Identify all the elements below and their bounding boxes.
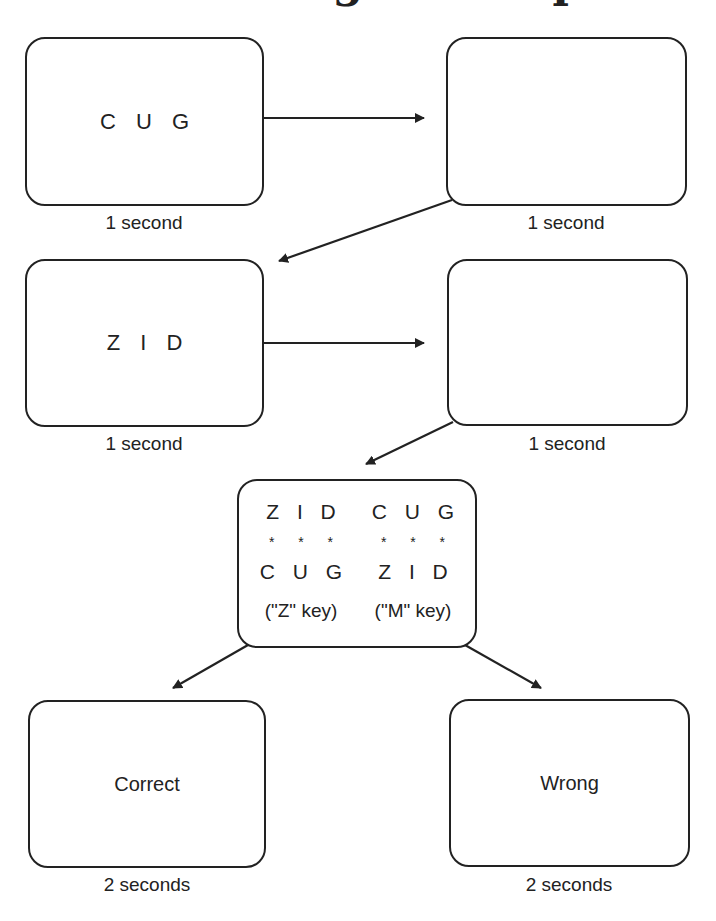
duration-label: 2 seconds: [27, 874, 267, 896]
right-bottom-stimulus: Z I D: [357, 557, 469, 587]
arrow-4-to-choice: [366, 422, 453, 464]
feedback-text: Wrong: [540, 772, 599, 795]
study-box-1: C U G: [25, 37, 264, 206]
right-key-label: ("M" key): [357, 587, 469, 631]
choice-row-top: Z I D C U G: [245, 497, 469, 527]
duration-label: 2 seconds: [449, 874, 689, 896]
choice-row-stars: * * * * * *: [245, 527, 469, 557]
duration-label: 1 second: [24, 212, 264, 234]
right-stars: * * *: [357, 527, 469, 557]
left-top-stimulus: Z I D: [245, 497, 357, 527]
right-top-stimulus: C U G: [357, 497, 469, 527]
left-bottom-stimulus: C U G: [245, 557, 357, 587]
feedback-text: Correct: [114, 773, 180, 796]
feedback-wrong-box: Wrong: [449, 699, 690, 867]
arrow-choice-to-correct: [173, 645, 248, 688]
duration-label: 1 second: [24, 433, 264, 455]
duration-label: 1 second: [447, 433, 687, 455]
choice-box: Z I D C U G * * * * * * C U G Z I D ("Z"…: [237, 479, 477, 648]
arrow-choice-to-wrong: [465, 645, 541, 688]
study-box-2: Z I D: [25, 259, 264, 427]
feedback-correct-box: Correct: [28, 700, 266, 868]
stimulus-text: Z I D: [100, 330, 190, 356]
choice-row-bottom: C U G Z I D: [245, 557, 469, 587]
blank-box-2: [447, 259, 688, 426]
left-stars: * * *: [245, 527, 357, 557]
left-key-label: ("Z" key): [245, 587, 357, 631]
blank-box-1: [446, 37, 687, 206]
choice-row-keys: ("Z" key) ("M" key): [245, 587, 469, 631]
arrow-2-to-3: [279, 200, 452, 261]
duration-label: 1 second: [446, 212, 686, 234]
stimulus-text: C U G: [93, 109, 196, 135]
